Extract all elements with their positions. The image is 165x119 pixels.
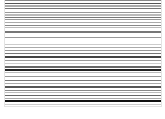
stripe-line	[5, 17, 161, 18]
stripe-line	[5, 66, 161, 68]
stripe-line	[5, 3, 161, 4]
stripe-line	[5, 31, 161, 33]
stripe-line	[5, 95, 161, 96]
stripe-line	[5, 27, 161, 28]
stripe-line	[5, 80, 161, 81]
stripe-line	[5, 56, 161, 58]
stripe-line	[5, 86, 161, 88]
stripe-line	[5, 25, 161, 26]
stripe-line	[5, 76, 161, 77]
stripe-line	[5, 44, 161, 45]
stripe-line	[5, 63, 161, 64]
stripe-line	[5, 12, 161, 13]
stripe-line	[5, 100, 161, 102]
stripe-line	[5, 90, 161, 91]
stripe-line	[5, 22, 161, 23]
stripe-line	[5, 53, 161, 54]
stripe-line	[5, 19, 161, 20]
stripe-line	[5, 92, 161, 93]
stripe-line	[5, 60, 161, 61]
stripe-line	[5, 72, 161, 73]
stripe-line	[5, 104, 161, 105]
stripe-line	[5, 5, 161, 7]
stripe-pattern-frame	[4, 0, 162, 107]
stripe-line	[5, 47, 161, 48]
stripe-line	[5, 98, 161, 99]
stripe-line	[5, 0, 161, 1]
stripe-line	[5, 37, 161, 38]
stripe-line	[5, 69, 161, 71]
stripe-line	[5, 8, 161, 9]
stripe-line	[5, 14, 161, 16]
stripe-line	[5, 50, 161, 51]
stripe-line	[5, 83, 161, 84]
